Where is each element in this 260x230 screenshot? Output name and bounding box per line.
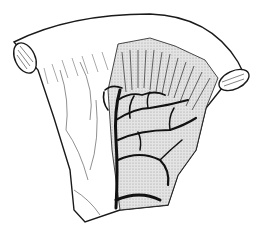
cut-face <box>108 38 218 210</box>
specimen-drawing <box>0 0 260 230</box>
illustration <box>0 0 260 230</box>
